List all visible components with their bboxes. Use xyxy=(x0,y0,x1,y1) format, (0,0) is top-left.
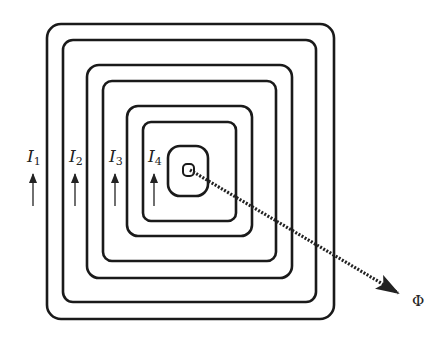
flux-label: Φ xyxy=(412,292,424,310)
flux-arrow-line xyxy=(190,170,398,293)
nested-loops-diagram: I1I2I3I4 Φ xyxy=(0,0,438,344)
current-loop-8 xyxy=(183,164,194,176)
current-label-2: I2 xyxy=(68,146,83,168)
current-loop-7 xyxy=(168,146,208,196)
current-label-4: I4 xyxy=(147,146,162,168)
current-label-1: I1 xyxy=(26,146,41,168)
flux-arrow: Φ xyxy=(190,170,424,310)
current-label-3: I3 xyxy=(108,146,123,168)
